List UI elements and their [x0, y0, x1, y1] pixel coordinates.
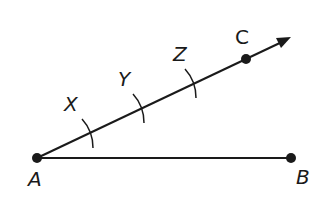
geometry-diagram: A B C X Y Z [0, 0, 331, 203]
label-z: Z [172, 42, 188, 66]
label-x: X [63, 92, 79, 116]
point-a [32, 153, 42, 163]
label-y: Y [118, 67, 132, 91]
label-c: C [235, 25, 249, 49]
arrowhead-icon [276, 37, 291, 48]
arc-mark-z [185, 69, 196, 98]
arc-mark-y [133, 94, 144, 123]
point-b [286, 153, 296, 163]
label-b: B [296, 165, 310, 189]
point-c [241, 54, 251, 64]
label-a: A [26, 167, 42, 191]
